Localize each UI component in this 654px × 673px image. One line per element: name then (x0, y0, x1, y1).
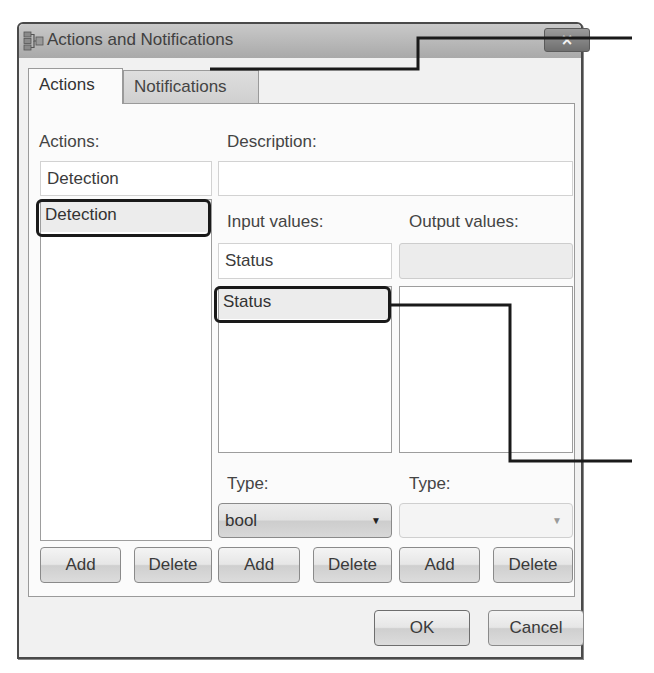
tab-actions[interactable]: Actions (28, 68, 123, 104)
cancel-button[interactable]: Cancel (488, 610, 584, 646)
delete-output-value-button[interactable]: Delete (493, 547, 573, 583)
delete-action-button[interactable]: Delete (134, 547, 212, 583)
actions-label: Actions: (39, 132, 99, 152)
title-bar[interactable]: Actions and Notifications × (19, 24, 581, 58)
output-values-list[interactable] (399, 286, 573, 453)
action-name-input[interactable]: Detection (40, 161, 212, 196)
input-values-label: Input values: (227, 212, 323, 232)
add-output-value-button[interactable]: Add (399, 547, 480, 583)
add-action-button[interactable]: Add (40, 547, 121, 583)
select-value: bool (225, 511, 257, 530)
chevron-down-icon: ▼ (552, 504, 562, 537)
tab-label: Notifications (134, 77, 227, 96)
close-button[interactable]: × (544, 28, 590, 52)
output-value-name-input[interactable] (399, 243, 573, 279)
output-values-label: Output values: (409, 212, 519, 232)
description-label: Description: (227, 132, 317, 152)
description-input[interactable] (218, 161, 573, 196)
input-type-label: Type: (227, 474, 269, 494)
chevron-down-icon: ▼ (371, 504, 381, 537)
delete-input-value-button[interactable]: Delete (313, 547, 392, 583)
app-icon (23, 30, 45, 52)
input-values-list[interactable]: Status (218, 286, 392, 453)
dialog-client-area: Actions Notifications Actions: Detection… (19, 58, 581, 657)
actions-notifications-dialog: Actions and Notifications × Actions Noti… (17, 22, 583, 659)
add-input-value-button[interactable]: Add (218, 547, 300, 583)
list-item[interactable]: Status (219, 287, 391, 319)
close-icon: × (561, 31, 574, 49)
output-type-select[interactable]: ▼ (399, 503, 573, 538)
list-item[interactable]: Detection (41, 200, 211, 232)
tab-notifications[interactable]: Notifications (123, 70, 259, 104)
output-type-label: Type: (409, 474, 451, 494)
input-value-name-input[interactable]: Status (218, 243, 392, 279)
tab-label: Actions (39, 75, 95, 94)
ok-button[interactable]: OK (374, 610, 470, 646)
actions-tab-panel: Actions: Detection Detection Add Delete … (28, 103, 575, 597)
actions-list[interactable]: Detection (40, 199, 212, 541)
input-type-select[interactable]: bool ▼ (218, 503, 392, 538)
window-title: Actions and Notifications (47, 30, 233, 50)
